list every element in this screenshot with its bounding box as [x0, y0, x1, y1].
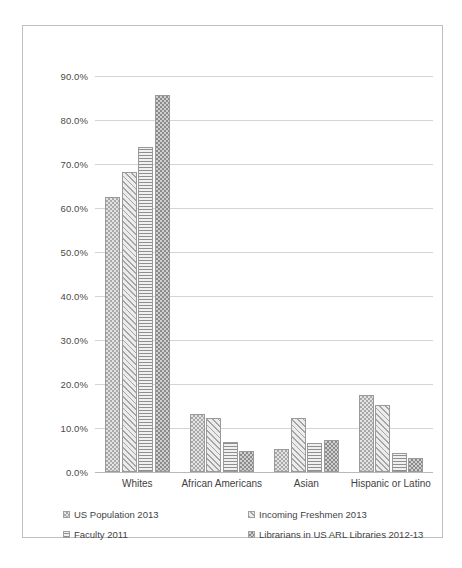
legend-label: Incoming Freshmen 2013	[259, 509, 367, 520]
bar[interactable]	[291, 418, 306, 472]
bar[interactable]	[239, 451, 254, 472]
y-axis-tick-label: 30.0%	[61, 335, 88, 346]
legend-swatch-icon	[248, 531, 255, 538]
legend-label: US Population 2013	[74, 509, 159, 520]
y-axis-tick-label: 60.0%	[61, 203, 88, 214]
legend-swatch-icon	[63, 531, 70, 538]
bar-group	[349, 76, 434, 472]
bar-group	[264, 76, 349, 472]
legend-label: Faculty 2011	[74, 529, 128, 540]
y-axis-tick-label: 90.0%	[61, 71, 88, 82]
bar[interactable]	[392, 453, 407, 472]
gridline	[95, 472, 433, 473]
bar[interactable]	[223, 442, 238, 472]
bar[interactable]	[155, 95, 170, 472]
bar[interactable]	[324, 440, 339, 472]
x-axis-tick-labels: WhitesAfrican AmericansAsianHispanic or …	[95, 478, 433, 494]
legend-item-librarians-arl[interactable]: Librarians in US ARL Libraries 2012-13	[248, 529, 423, 540]
bar[interactable]	[105, 197, 120, 472]
bar[interactable]	[307, 443, 322, 472]
bar-group	[95, 76, 180, 472]
y-axis-tick-label: 40.0%	[61, 291, 88, 302]
bar[interactable]	[359, 395, 374, 472]
legend-row: US Population 2013 Incoming Freshmen 201…	[63, 504, 433, 524]
legend-swatch-icon	[248, 511, 255, 518]
x-axis-tick-label: Hispanic or Latino	[351, 478, 431, 489]
legend-item-faculty-2011[interactable]: Faculty 2011	[63, 529, 248, 540]
x-axis-tick-label: African Americans	[181, 478, 262, 489]
bar[interactable]	[375, 405, 390, 472]
y-axis-tick-label: 0.0%	[66, 467, 88, 478]
x-axis-tick-label: Asian	[294, 478, 319, 489]
bar-group	[180, 76, 265, 472]
legend-item-incoming-freshmen-2013[interactable]: Incoming Freshmen 2013	[248, 509, 367, 520]
x-axis-tick-label: Whites	[122, 478, 153, 489]
y-axis-tick-label: 20.0%	[61, 379, 88, 390]
chart-container: 0.0%10.0%20.0%30.0%40.0%50.0%60.0%70.0%8…	[22, 25, 443, 538]
bar[interactable]	[138, 147, 153, 472]
y-axis-tick-label: 80.0%	[61, 115, 88, 126]
legend-item-us-population-2013[interactable]: US Population 2013	[63, 509, 248, 520]
bar[interactable]	[206, 418, 221, 472]
legend-row: Faculty 2011 Librarians in US ARL Librar…	[63, 524, 433, 544]
y-axis-tick-label: 50.0%	[61, 247, 88, 258]
legend-swatch-icon	[63, 511, 70, 518]
y-axis-tick-label: 10.0%	[61, 423, 88, 434]
y-axis-tick-label: 70.0%	[61, 159, 88, 170]
bar[interactable]	[122, 172, 137, 472]
bar[interactable]	[190, 414, 205, 472]
bar[interactable]	[274, 449, 289, 472]
plot-area: 0.0%10.0%20.0%30.0%40.0%50.0%60.0%70.0%8…	[95, 76, 433, 472]
bars-layer	[95, 76, 433, 472]
chart-legend: US Population 2013 Incoming Freshmen 201…	[63, 504, 433, 544]
legend-label: Librarians in US ARL Libraries 2012-13	[259, 529, 423, 540]
bar[interactable]	[408, 458, 423, 472]
